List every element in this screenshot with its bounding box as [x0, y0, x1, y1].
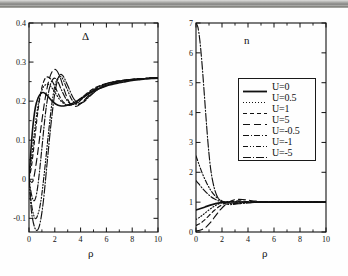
svg-text:10: 10	[154, 235, 162, 244]
svg-text:2: 2	[53, 235, 57, 244]
svg-text:3: 3	[189, 138, 193, 147]
legend-item: U=-0.5	[242, 125, 312, 136]
svg-text:2: 2	[189, 168, 193, 177]
svg-text:1: 1	[189, 198, 193, 207]
svg-text:8: 8	[298, 235, 302, 244]
legend-item-label: U=-0.5	[272, 126, 300, 136]
svg-text:0: 0	[189, 228, 193, 237]
svg-text:4: 4	[79, 235, 83, 244]
series-u5	[29, 69, 158, 182]
legend-line-sample	[242, 126, 268, 135]
series-u1	[196, 201, 326, 226]
legend-line-sample	[242, 82, 268, 91]
legend-line-sample	[242, 93, 268, 102]
legend-item: U=-5	[242, 147, 312, 158]
svg-text:4: 4	[246, 235, 250, 244]
legend-line-sample	[242, 148, 268, 157]
svg-text:0.3: 0.3	[16, 58, 26, 67]
svg-text:6: 6	[189, 49, 193, 58]
legend: U=0U=0.5U=1U=5U=-0.5U=-1U=-5	[238, 78, 316, 161]
n-panel: 024681001234567 n ρ U=0U=0.5U=1U=5U=-0.5…	[174, 8, 348, 276]
delta-xaxis-label: ρ	[88, 247, 94, 259]
legend-item-label: U=0	[272, 82, 289, 92]
delta-plot-svg: 0246810-0.100.10.20.30.4	[0, 8, 174, 276]
svg-text:4: 4	[189, 109, 193, 118]
svg-text:-0.1: -0.1	[13, 214, 26, 223]
legend-item: U=0.5	[242, 92, 312, 103]
svg-text:0: 0	[27, 235, 31, 244]
figure-canvas: 0246810-0.100.10.20.30.4 Δ ρ 02468100123…	[0, 0, 348, 276]
svg-text:6: 6	[272, 235, 276, 244]
svg-text:5: 5	[189, 79, 193, 88]
svg-text:0.2: 0.2	[16, 97, 26, 106]
legend-item: U=0	[242, 81, 312, 92]
legend-item-label: U=-5	[272, 148, 292, 158]
legend-item-label: U=1	[272, 104, 289, 114]
delta-panel: 0246810-0.100.10.20.30.4 Δ ρ	[0, 8, 174, 276]
legend-item: U=1	[242, 103, 312, 114]
legend-item: U=-1	[242, 136, 312, 147]
svg-text:2: 2	[220, 235, 224, 244]
svg-text:0: 0	[194, 235, 198, 244]
series-u-1	[196, 156, 326, 204]
svg-text:0.1: 0.1	[16, 136, 26, 145]
svg-text:7: 7	[189, 19, 193, 28]
legend-line-sample	[242, 104, 268, 113]
delta-panel-title: Δ	[82, 30, 89, 42]
n-xaxis-label: ρ	[262, 247, 268, 259]
svg-text:8: 8	[130, 235, 134, 244]
n-panel-title: n	[244, 34, 250, 46]
legend-line-sample	[242, 115, 268, 124]
legend-line-sample	[242, 137, 268, 146]
svg-text:6: 6	[104, 235, 108, 244]
legend-item-label: U=0.5	[272, 93, 296, 103]
svg-text:10: 10	[322, 235, 330, 244]
svg-text:0: 0	[22, 175, 26, 184]
legend-item-label: U=5	[272, 115, 289, 125]
legend-item: U=5	[242, 114, 312, 125]
svg-text:0.4: 0.4	[16, 19, 26, 28]
legend-item-label: U=-1	[272, 137, 292, 147]
